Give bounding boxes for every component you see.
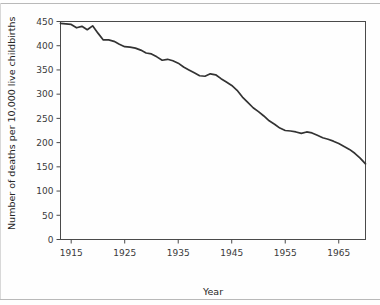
y-tick-label: 50: [42, 211, 54, 221]
x-tick-label: 1965: [327, 248, 350, 258]
data-series-maternal-mortality: [61, 23, 366, 163]
x-tick-label: 1945: [220, 248, 243, 258]
x-axis: 191519251935194519551965: [60, 240, 350, 258]
y-tick-label: 150: [36, 162, 53, 172]
y-tick-label: 300: [36, 89, 53, 99]
x-tick-label: 1935: [167, 248, 190, 258]
y-tick-label: 100: [36, 186, 53, 196]
y-tick-label: 200: [36, 138, 53, 148]
y-tick-label: 450: [36, 17, 53, 27]
line-chart: 050100150200250300350400450 191519251935…: [0, 0, 380, 305]
y-tick-label: 350: [36, 65, 53, 75]
y-tick-label: 250: [36, 114, 53, 124]
x-tick-label: 1915: [60, 248, 83, 258]
y-tick-label: 0: [48, 235, 54, 245]
plot-frame: [61, 22, 366, 240]
y-axis: 050100150200250300350400450: [36, 17, 60, 245]
y-axis-title: Number of deaths per 10,000 live childbi…: [6, 17, 17, 230]
figure-root: 050100150200250300350400450 191519251935…: [0, 0, 380, 305]
x-tick-label: 1955: [274, 248, 297, 258]
x-tick-label: 1925: [113, 248, 136, 258]
x-axis-title: Year: [202, 286, 223, 297]
y-tick-label: 400: [36, 41, 53, 51]
